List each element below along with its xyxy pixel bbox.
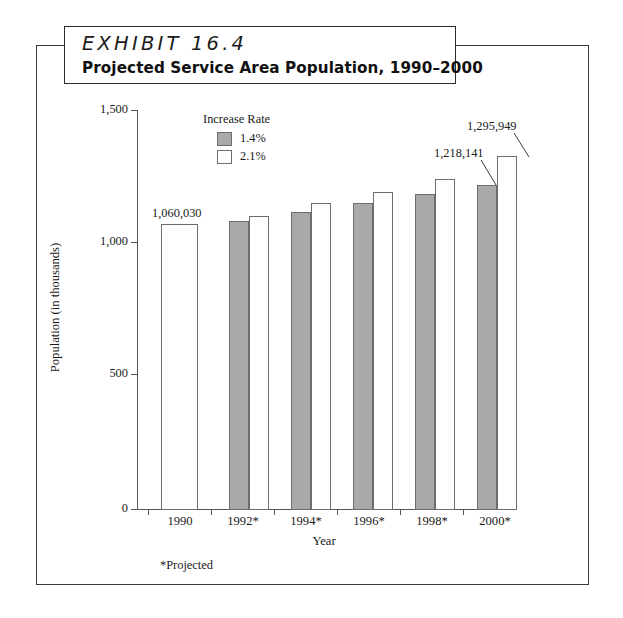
page-title: Projected Service Area Population, 1990–… [82,57,455,79]
exhibit-number: EXHIBIT 16.4 [82,32,455,55]
leader-lines [0,0,623,618]
bar-chart: 1,500 1,000 500 0 Population (in thousan… [0,0,623,618]
exhibit-title-box: EXHIBIT 16.4 Projected Service Area Popu… [64,26,456,84]
